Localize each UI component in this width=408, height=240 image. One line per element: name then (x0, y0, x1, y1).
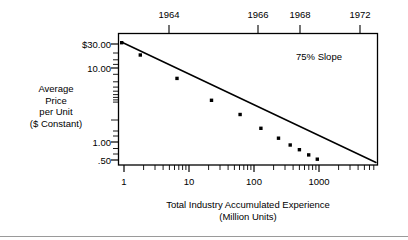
data-point (259, 127, 262, 130)
data-point (238, 113, 241, 116)
data-point (307, 153, 310, 156)
x-axis-major-ticks (124, 165, 319, 172)
data-point-markers (120, 41, 319, 161)
x-axis-minor-ticks (144, 165, 374, 170)
data-point (277, 137, 280, 140)
year-axis-ticks (169, 25, 360, 33)
experience-curve-chart: Average Price per Unit ($ Constant) Tota… (0, 0, 408, 240)
experience-curve-fit-line (123, 43, 377, 163)
data-point (289, 143, 292, 146)
data-point (316, 158, 319, 161)
data-point (210, 99, 213, 102)
data-point (120, 41, 123, 44)
data-point (175, 77, 178, 80)
bottom-divider (0, 236, 408, 237)
data-point (298, 148, 301, 151)
plot-area (0, 0, 408, 240)
data-point (139, 53, 142, 56)
